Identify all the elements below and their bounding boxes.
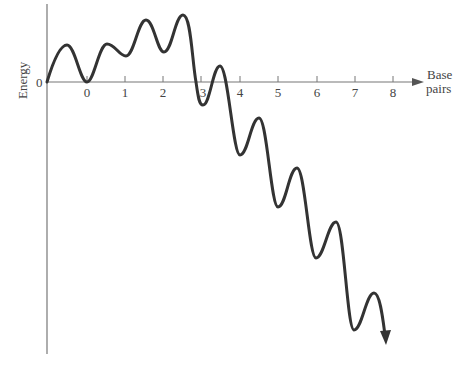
tick-label-7: 7 — [352, 85, 359, 100]
energy-curve — [47, 15, 385, 335]
x-tick-labels: 0 1 2 3 4 5 6 7 8 — [84, 85, 397, 100]
x-axis-arrow-icon — [412, 78, 424, 86]
tick-label-5: 5 — [275, 85, 282, 100]
x-axis-label-line2: pairs — [426, 81, 451, 96]
tick-label-8: 8 — [390, 85, 397, 100]
energy-chart: 0 1 2 3 4 5 6 7 8 0 Energy Base pairs — [0, 0, 464, 365]
tick-label-4: 4 — [237, 85, 244, 100]
tick-label-3: 3 — [200, 85, 207, 100]
x-ticks — [87, 76, 393, 82]
tick-label-2: 2 — [160, 85, 167, 100]
tick-label-1: 1 — [122, 85, 129, 100]
tick-label-0: 0 — [84, 85, 91, 100]
y-axis-label: Energy — [15, 61, 30, 99]
curve-arrow-icon — [380, 330, 391, 345]
tick-label-6: 6 — [314, 85, 321, 100]
x-axis-label-line1: Base — [427, 67, 453, 82]
y-zero-label: 0 — [36, 75, 43, 90]
